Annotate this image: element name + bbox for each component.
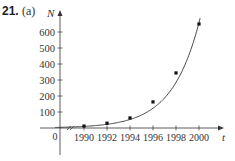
problem-part: (a)	[22, 4, 35, 18]
data-point	[82, 124, 85, 127]
problem-number: 21.	[2, 4, 19, 18]
y-axis-title: N	[46, 7, 55, 19]
y-tick-label: 600	[39, 27, 55, 38]
x-tick-label: 1996	[143, 132, 163, 143]
y-axis-arrow-icon	[58, 10, 63, 16]
y-tick-label: 100	[39, 107, 55, 118]
exponential-fit-line	[55, 18, 200, 127]
x-tick-label: 1990	[74, 132, 94, 143]
x-tick-label: 2000	[189, 132, 209, 143]
x-axis-title: t	[222, 131, 226, 143]
y-tick-label: 200	[39, 91, 55, 102]
exponential-growth-chart: 21. (a) 10020030040050060001990199219941…	[0, 0, 235, 161]
data-point	[128, 116, 131, 119]
y-tick-label: 300	[39, 75, 55, 86]
data-point	[174, 71, 177, 74]
data-point	[105, 122, 108, 125]
fit-curve	[55, 18, 200, 127]
x-tick-label: 1998	[166, 132, 186, 143]
data-points	[82, 22, 200, 127]
x-tick-label: 1994	[120, 132, 140, 143]
x-axis-arrow-icon	[218, 126, 224, 131]
data-point	[151, 100, 154, 103]
origin-label: 0	[53, 131, 58, 142]
x-tick-label: 1992	[97, 132, 117, 143]
data-point	[197, 22, 200, 25]
y-tick-label: 400	[39, 59, 55, 70]
y-tick-label: 500	[39, 43, 55, 54]
axes: 1002003004005006000199019921994199619982…	[39, 7, 226, 155]
